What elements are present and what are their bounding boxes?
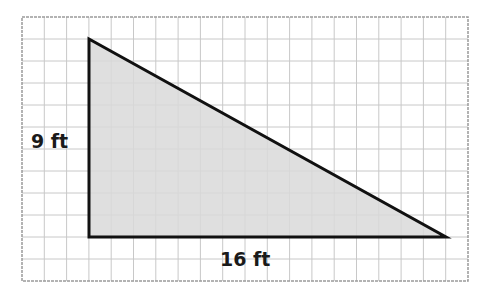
base-label: 16 ft — [220, 250, 270, 269]
height-label: 9 ft — [31, 132, 68, 151]
